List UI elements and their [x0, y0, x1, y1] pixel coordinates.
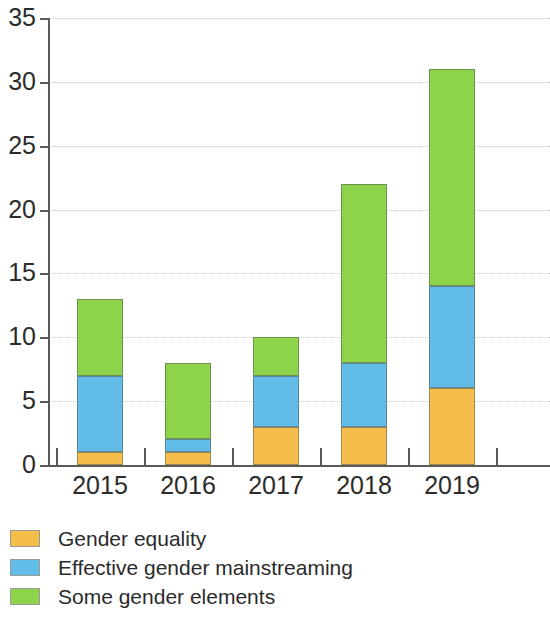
bar-segment-2017-series-1[interactable] — [253, 376, 299, 427]
y-tick-label-15: 15 — [8, 260, 36, 285]
bar-segment-2018-series-2[interactable] — [341, 184, 387, 363]
bar-segment-2015-series-1[interactable] — [77, 376, 123, 453]
bar-segment-2019-series-2[interactable] — [429, 69, 475, 286]
legend-item-1[interactable]: Effective gender mainstreaming — [10, 553, 540, 582]
bar-segment-2017-series-2[interactable] — [253, 337, 299, 375]
bar-segment-2018-series-0[interactable] — [341, 427, 387, 465]
y-tick-mark-0 — [40, 465, 49, 467]
bar-segment-2017-series-0[interactable] — [253, 427, 299, 465]
x-tick-mark-3 — [320, 448, 322, 465]
x-tick-label-2019: 2019 — [408, 473, 496, 498]
x-tick-mark-1 — [144, 448, 146, 465]
y-tick-mark-15 — [40, 273, 49, 275]
bar-segment-2016-series-1[interactable] — [165, 439, 211, 452]
y-tick-label-20: 20 — [8, 197, 36, 222]
x-tick-label-2015: 2015 — [56, 473, 144, 498]
y-tick-mark-10 — [40, 337, 49, 339]
x-tick-mark-0 — [56, 448, 58, 465]
y-tick-label-0: 0 — [22, 452, 36, 477]
y-tick-label-25: 25 — [8, 133, 36, 158]
legend-swatch-icon-2 — [10, 588, 40, 605]
bar-group-2016[interactable] — [165, 18, 211, 465]
legend-item-0[interactable]: Gender equality — [10, 524, 540, 553]
y-tick-mark-30 — [40, 82, 49, 84]
chart-legend: Gender equalityEffective gender mainstre… — [10, 524, 540, 611]
x-axis-line — [48, 465, 550, 467]
y-tick-mark-5 — [40, 401, 49, 403]
x-tick-mark-4 — [408, 448, 410, 465]
x-tick-label-2017: 2017 — [232, 473, 320, 498]
legend-swatch-icon-1 — [10, 559, 40, 576]
bar-segment-2015-series-2[interactable] — [77, 299, 123, 376]
x-tick-label-2016: 2016 — [144, 473, 232, 498]
y-tick-label-30: 30 — [8, 69, 36, 94]
legend-label-2: Some gender elements — [58, 586, 275, 607]
x-tick-label-2018: 2018 — [320, 473, 408, 498]
bar-group-2018[interactable] — [341, 18, 387, 465]
bar-group-2015[interactable] — [77, 18, 123, 465]
bar-group-2019[interactable] — [429, 18, 475, 465]
bar-segment-2016-series-2[interactable] — [165, 363, 211, 440]
legend-item-2[interactable]: Some gender elements — [10, 582, 540, 611]
bar-segment-2019-series-1[interactable] — [429, 286, 475, 388]
y-tick-mark-25 — [40, 146, 49, 148]
stacked-bar-chart: 05101520253035 20152016201720182019 Gend… — [0, 0, 550, 617]
legend-swatch-icon-0 — [10, 530, 40, 547]
y-tick-mark-35 — [40, 18, 49, 20]
y-tick-mark-20 — [40, 210, 49, 212]
y-axis-line — [48, 18, 50, 465]
bar-group-2017[interactable] — [253, 18, 299, 465]
bar-segment-2015-series-0[interactable] — [77, 452, 123, 465]
bar-segment-2019-series-0[interactable] — [429, 388, 475, 465]
y-tick-label-5: 5 — [22, 388, 36, 413]
x-tick-mark-5 — [496, 448, 498, 465]
y-tick-label-35: 35 — [8, 5, 36, 30]
bar-segment-2018-series-1[interactable] — [341, 363, 387, 427]
bars-layer — [48, 18, 550, 465]
y-tick-label-10: 10 — [8, 324, 36, 349]
bar-segment-2016-series-0[interactable] — [165, 452, 211, 465]
legend-label-0: Gender equality — [58, 528, 206, 549]
x-tick-mark-2 — [232, 448, 234, 465]
legend-label-1: Effective gender mainstreaming — [58, 557, 353, 578]
